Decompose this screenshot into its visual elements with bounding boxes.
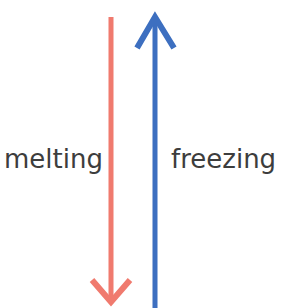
melting-label: melting bbox=[4, 144, 103, 174]
freezing-label: freezing bbox=[171, 144, 276, 174]
freezing-arrow bbox=[137, 17, 174, 308]
